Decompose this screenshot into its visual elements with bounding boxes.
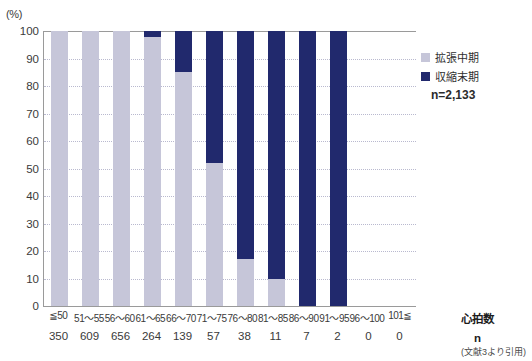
bar-group	[44, 31, 416, 306]
x-axis-category-label: 91〜95	[319, 310, 350, 325]
y-axis-tick-label: 20	[26, 245, 39, 257]
stacked-bar	[206, 31, 223, 306]
legend-swatch	[421, 72, 430, 81]
bar-segment-end-systole	[330, 31, 347, 306]
bar-slot	[75, 31, 106, 306]
bar-segment-mid-diastole	[206, 163, 223, 306]
n-row-title: n	[474, 332, 481, 344]
bar-slot	[44, 31, 75, 306]
bar-segment-end-systole	[299, 31, 316, 306]
stacked-bar	[113, 31, 130, 306]
stacked-bar	[144, 31, 161, 306]
y-axis-unit-label: (%)	[6, 8, 22, 20]
y-axis-tick-label: 40	[26, 190, 39, 202]
stacked-bar	[299, 31, 316, 306]
x-axis-count-value: 609	[74, 325, 105, 342]
x-axis: ≦5051〜5556〜6061〜6566〜7071〜7576〜8081〜8586…	[43, 310, 415, 342]
bar-segment-end-systole	[237, 31, 254, 259]
bar-segment-mid-diastole	[82, 31, 99, 306]
y-axis-tick-label: 60	[26, 135, 39, 147]
bar-slot	[106, 31, 137, 306]
stacked-bar	[237, 31, 254, 306]
bar-slot	[261, 31, 292, 306]
bar-slot	[230, 31, 261, 306]
x-axis-title: 心拍数	[461, 310, 494, 326]
bar-segment-mid-diastole	[268, 279, 285, 307]
bar-segment-mid-diastole	[113, 31, 130, 306]
bar-slot	[168, 31, 199, 306]
bar-slot	[385, 31, 416, 306]
x-axis-category-label: 86〜90	[288, 310, 319, 325]
stacked-bar	[175, 31, 192, 306]
x-axis-count-row: 3506096562641395738117200	[43, 325, 415, 342]
x-axis-count-value: 139	[167, 325, 198, 342]
bar-segment-mid-diastole	[175, 72, 192, 306]
y-axis-tick-label: 50	[26, 163, 39, 175]
bar-slot	[199, 31, 230, 306]
x-axis-count-value: 38	[229, 325, 260, 342]
bar-segment-end-systole	[175, 31, 192, 72]
x-axis-category-label: 76〜80	[227, 310, 258, 325]
x-axis-count-value: 11	[260, 325, 291, 342]
x-axis-count-value: 350	[43, 325, 74, 342]
bar-segment-mid-diastole	[144, 37, 161, 307]
total-sample-size: n=2,133	[431, 88, 475, 102]
bar-slot	[292, 31, 323, 306]
y-axis-tick-label: 0	[33, 300, 39, 312]
stacked-bar	[330, 31, 347, 306]
x-axis-category-label: 66〜70	[166, 310, 197, 325]
y-axis-tick-label: 10	[26, 273, 39, 285]
y-axis-tick-label: 30	[26, 218, 39, 230]
x-axis-category-label: 96〜100	[350, 310, 385, 325]
y-axis-tick-label: 100	[20, 25, 39, 37]
x-axis-category-label: 71〜75	[196, 310, 227, 325]
x-axis-category-label: 81〜85	[258, 310, 289, 325]
x-axis-count-value: 2	[322, 325, 353, 342]
x-axis-count-value: 7	[291, 325, 322, 342]
bar-slot	[354, 31, 385, 306]
legend: 拡張中期収縮末期	[421, 49, 529, 87]
bar-segment-mid-diastole	[237, 259, 254, 306]
legend-item: 拡張中期	[421, 49, 529, 65]
x-axis-count-value: 264	[136, 325, 167, 342]
stacked-bar	[82, 31, 99, 306]
legend-label: 拡張中期	[435, 49, 479, 65]
legend-swatch	[421, 53, 430, 62]
legend-item: 収縮末期	[421, 68, 529, 84]
x-axis-count-value: 57	[198, 325, 229, 342]
source-note: (文献3より引用)	[461, 345, 526, 358]
y-axis-tick-label: 70	[26, 108, 39, 120]
x-axis-category-label: 101≦	[384, 310, 415, 325]
stacked-bar	[51, 31, 68, 306]
y-axis-tick-label: 80	[26, 80, 39, 92]
y-axis-tick-label: 90	[26, 53, 39, 65]
x-axis-count-value: 656	[105, 325, 136, 342]
x-axis-category-label: 56〜60	[104, 310, 135, 325]
plot-area: 1009080706050403020100	[43, 31, 416, 307]
chart-figure: (%) 1009080706050403020100 拡張中期収縮末期 n=2,…	[0, 0, 532, 361]
stacked-bar	[268, 31, 285, 306]
bar-segment-end-systole	[268, 31, 285, 279]
x-axis-category-label: ≦50	[43, 310, 74, 325]
x-axis-count-value: 0	[353, 325, 384, 342]
x-axis-count-value: 0	[384, 325, 415, 342]
x-axis-category-label: 51〜55	[74, 310, 105, 325]
bar-segment-end-systole	[206, 31, 223, 163]
x-axis-category-row: ≦5051〜5556〜6061〜6566〜7071〜7576〜8081〜8586…	[43, 310, 415, 325]
bar-slot	[323, 31, 354, 306]
bar-slot	[137, 31, 168, 306]
x-axis-category-label: 61〜65	[135, 310, 166, 325]
legend-label: 収縮末期	[435, 68, 479, 84]
bar-segment-mid-diastole	[51, 31, 68, 306]
